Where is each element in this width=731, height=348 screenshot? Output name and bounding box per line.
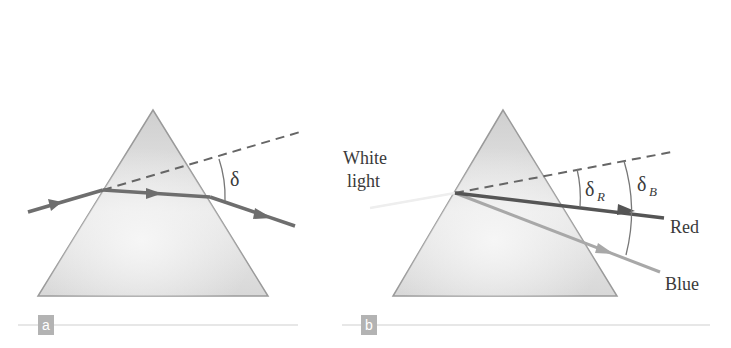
deviation-angle-sub-red: R [596, 189, 605, 204]
figure-canvas: δ δ R δ B White light Red Blue a [0, 0, 731, 348]
panel-b: δ R δ B White light Red Blue [343, 110, 699, 296]
deviation-angle-label-a: δ [230, 168, 239, 190]
white-light-label-line2: light [347, 171, 380, 191]
incident-white-light-ray [370, 193, 455, 208]
arrow-icon [48, 199, 62, 211]
panel-label-a: a [18, 315, 298, 335]
deviation-angle-label-blue: δ [637, 173, 646, 195]
arrow-icon [595, 243, 614, 254]
panel-label-b: b [342, 315, 710, 335]
white-light-label-line1: White [343, 148, 387, 168]
blue-ray-label: Blue [665, 274, 699, 294]
panel-b-label: b [365, 317, 373, 333]
red-ray-label: Red [670, 217, 699, 237]
panel-a: δ [28, 110, 300, 296]
deviation-angle-label-red: δ [585, 178, 594, 200]
deviation-angle-arc-a [219, 159, 225, 201]
prism-dispersion-figure: δ δ R δ B White light Red Blue a [0, 0, 731, 348]
arrow-icon [253, 208, 272, 219]
panel-a-label: a [42, 317, 50, 333]
deviation-angle-arc-red [577, 169, 580, 207]
deviation-angle-sub-blue: B [649, 184, 657, 199]
